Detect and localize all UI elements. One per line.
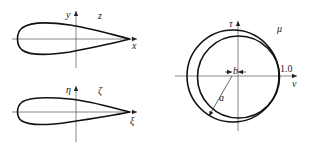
eta-axis-label: η xyxy=(66,84,71,95)
zeta-plane-panel: η ζ ξ xyxy=(12,84,137,142)
mu-plane-panel: b a τ μ 1.0 ν xyxy=(175,18,297,131)
x-axis-label: x xyxy=(131,40,137,51)
zeta-plane-label: ζ xyxy=(98,85,103,97)
airfoil-zeta xyxy=(18,98,131,125)
y-axis-label: y xyxy=(65,9,71,20)
offset-b-label: b xyxy=(233,65,238,76)
nu-axis-label: ν xyxy=(292,78,297,89)
z-plane-panel: y z x xyxy=(12,9,137,68)
inner-circle xyxy=(198,36,280,118)
unit-mark-label: 1.0 xyxy=(280,63,293,74)
xi-axis-label: ξ xyxy=(130,115,135,127)
tau-axis-label: τ xyxy=(229,18,233,29)
mu-plane-label: μ xyxy=(276,23,282,34)
diagram-canvas: y z x η ζ ξ b a τ μ 1.0 ν xyxy=(0,0,309,150)
radius-a-label: a xyxy=(219,92,224,103)
z-plane-label: z xyxy=(97,10,102,21)
